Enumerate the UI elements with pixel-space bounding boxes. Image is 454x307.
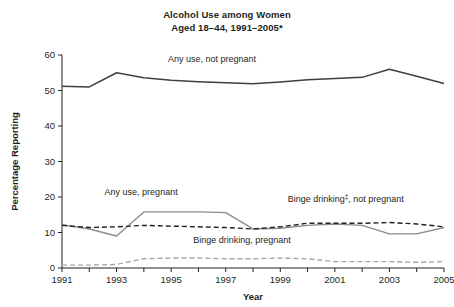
label-text: Binge drinking <box>288 194 345 204</box>
series-line-1 <box>62 212 444 236</box>
x-tick-label-1991: 1991 <box>51 274 72 285</box>
series-label-2: Binge drinking‡, not pregnant <box>288 193 405 205</box>
y-tick-label-20: 20 <box>44 191 55 202</box>
x-tick-label-2005: 2005 <box>433 274 454 285</box>
y-tick-label-30: 30 <box>44 156 55 167</box>
series-annotations: Any use, not pregnantAny use, pregnantBi… <box>105 54 405 245</box>
x-tick-label-1999: 1999 <box>270 274 291 285</box>
x-axis-title: Year <box>243 291 263 302</box>
x-tick-labels: 19911993199519971999200120032005 <box>51 274 454 285</box>
x-tick-label-1997: 1997 <box>215 274 236 285</box>
series-label-0: Any use, not pregnant <box>168 54 257 64</box>
y-tick-label-40: 40 <box>44 120 55 131</box>
y-tick-marks <box>58 55 62 268</box>
y-tick-label-50: 50 <box>44 85 55 96</box>
series-label-3: Binge drinking, pregnant <box>193 235 291 245</box>
y-tick-label-0: 0 <box>50 262 55 273</box>
x-tick-label-1995: 1995 <box>161 274 182 285</box>
label-tail: , not pregnant <box>348 194 404 204</box>
x-tick-label-2003: 2003 <box>379 274 400 285</box>
axes: 0102030405060 19911993199519971999200120… <box>44 49 454 285</box>
y-tick-label-10: 10 <box>44 227 55 238</box>
series-label-1: Any use, pregnant <box>105 187 179 197</box>
series-line-0 <box>62 69 444 87</box>
series-line-2 <box>62 223 444 229</box>
y-tick-label-60: 60 <box>44 49 55 60</box>
x-tick-label-2001: 2001 <box>324 274 345 285</box>
series-line-3 <box>62 258 444 265</box>
x-tick-label-1993: 1993 <box>106 274 127 285</box>
line-chart-plot: 0102030405060 19911993199519971999200120… <box>0 0 454 307</box>
x-tick-marks <box>62 268 444 272</box>
y-axis-title: Percentage Reporting <box>9 112 20 211</box>
chart-figure: Alcohol Use among Women Aged 18–44, 1991… <box>0 0 454 307</box>
y-tick-labels: 0102030405060 <box>44 49 55 273</box>
